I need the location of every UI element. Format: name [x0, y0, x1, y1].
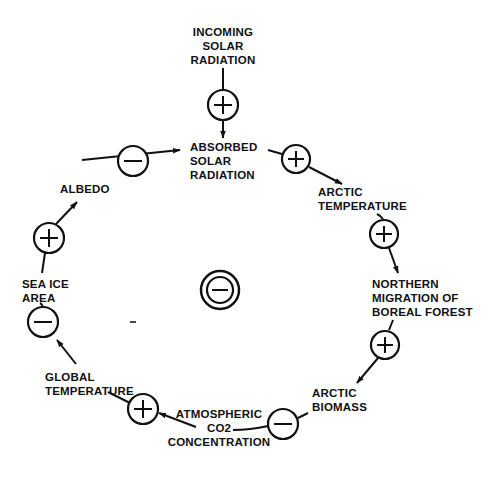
sign-globaltemp-seaice: [28, 307, 58, 337]
label-arctic-temperature: ARCTIC TEMPERATURE: [318, 185, 407, 213]
label-atmospheric-co2-concentration: ATMOSPHERIC CO2 CONCENTRATION: [166, 407, 272, 449]
label-arctic-biomass: ARCTIC BIOMASS: [312, 386, 367, 414]
label-northern-migration-boreal-forest: NORTHERN MIGRATION OF BOREAL FOREST: [372, 277, 473, 319]
label-incoming-solar-radiation: INCOMING SOLAR RADIATION: [190, 25, 256, 67]
sign-boreal-biomass: [371, 331, 399, 359]
label-global-temperature: GLOBAL TEMPERATURE: [45, 370, 134, 398]
sign-seaice-albedo: [34, 223, 64, 253]
label-sea-ice-area: SEA ICE AREA: [22, 277, 69, 305]
sign-biomass-co2: [268, 409, 298, 439]
loop-polarity-negative-icon: [201, 271, 239, 309]
sign-absorbed-arctictemp: [282, 145, 310, 173]
sign-arctictemp-boreal: [370, 220, 398, 248]
sign-co2-globaltemp: [128, 394, 158, 424]
sign-incoming-absorbed: [208, 90, 238, 120]
sign-albedo-absorbed: [118, 146, 148, 176]
label-absorbed-solar-radiation: ABSORBED SOLAR RADIATION: [190, 140, 257, 182]
label-albedo: ALBEDO: [60, 182, 110, 196]
